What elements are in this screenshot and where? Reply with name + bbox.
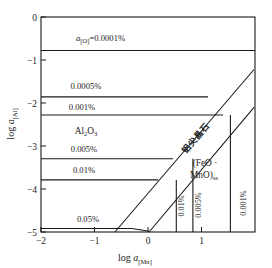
isoline-label-v-0.005: 0.005% bbox=[194, 192, 203, 217]
isoline-label-o-0.005: 0.005% bbox=[71, 144, 98, 154]
ytick-label-minus4: −4 bbox=[27, 185, 37, 195]
x-axis-title: log a[Mn] bbox=[118, 252, 152, 266]
feo-mno-line1: (FeO · bbox=[193, 158, 218, 169]
y-axis-title: log a[Al] bbox=[5, 108, 19, 139]
ytick-label-minus2: −2 bbox=[27, 99, 37, 109]
isoline-label-o-0.001: 0.001% bbox=[69, 102, 96, 112]
x-axis-title-sub: [Mn] bbox=[138, 258, 152, 266]
isoline-label-v-0.01: 0.01% bbox=[177, 195, 186, 216]
feo-mno-sub: ss bbox=[213, 174, 219, 181]
vlabel-group-0.001: 0.001% bbox=[239, 190, 248, 215]
stability-diagram-svg: 0 −1 −2 −3 −4 −5 −2 −1 0 1 log a[Mn] log… bbox=[0, 0, 272, 268]
x-axis-title-prefix: log bbox=[118, 252, 133, 263]
chart-figure: 0 −1 −2 −3 −4 −5 −2 −1 0 1 log a[Mn] log… bbox=[0, 0, 272, 268]
x-tick-labels: −2 −1 0 1 bbox=[36, 236, 204, 246]
vlabel-group-0.005: 0.005% bbox=[194, 192, 203, 217]
xtick-label-1: 1 bbox=[199, 236, 204, 246]
y-axis-title-prefix: log bbox=[5, 124, 16, 139]
y-axis-title-sub: [Al] bbox=[11, 108, 19, 119]
ytick-label-0: 0 bbox=[32, 13, 37, 23]
isoline-label-o-0.05: 0.05% bbox=[77, 214, 99, 224]
isoline-label-o-0.01: 0.01% bbox=[73, 165, 95, 175]
feo-mno-line2: MnO) bbox=[190, 170, 213, 181]
vlabel-group-0.01: 0.01% bbox=[177, 195, 186, 216]
ytick-label-minus1: −1 bbox=[27, 56, 37, 66]
isoline-label-v-0.001: 0.001% bbox=[239, 190, 248, 215]
oxygen-label-eq: =0.0001% bbox=[89, 33, 125, 43]
al2o3-part1: Al bbox=[75, 126, 85, 136]
svg-text:log a[Al]: log a[Al] bbox=[5, 108, 19, 139]
plot-background bbox=[41, 17, 255, 232]
isoline-label-o-0.0005: 0.0005% bbox=[71, 81, 102, 91]
xtick-label-0: 0 bbox=[146, 236, 151, 246]
y-tick-labels: 0 −1 −2 −3 −4 −5 bbox=[27, 13, 37, 238]
xtick-label-minus2: −2 bbox=[36, 236, 46, 246]
xtick-label-minus1: −1 bbox=[89, 236, 99, 246]
oxygen-label-sub: [O] bbox=[80, 37, 89, 45]
svg-text:log a[Mn]: log a[Mn] bbox=[118, 252, 152, 266]
ytick-label-minus3: −3 bbox=[27, 142, 37, 152]
